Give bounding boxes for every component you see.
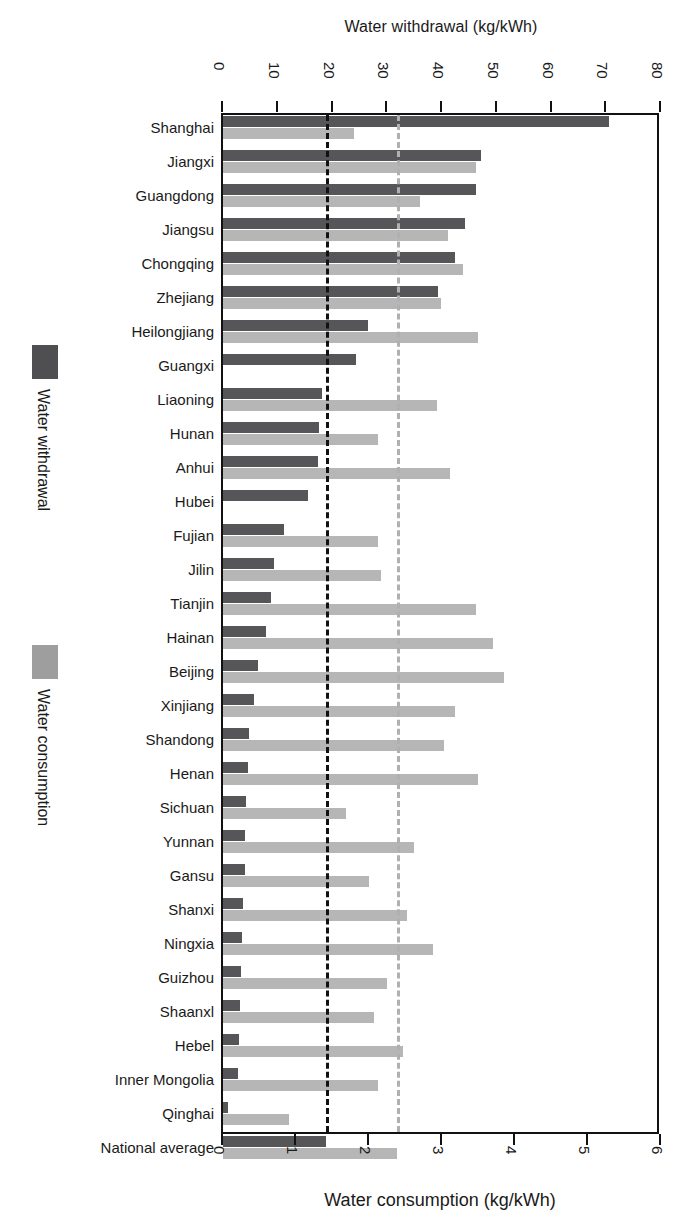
top-axis-tick-mark bbox=[659, 101, 661, 112]
bar-row bbox=[223, 217, 657, 251]
top-axis-tick-mark bbox=[440, 101, 442, 112]
bar-row bbox=[223, 931, 657, 965]
category-label: Inner Mongolia bbox=[34, 1071, 214, 1088]
top-axis-tick-label: 40 bbox=[430, 62, 447, 79]
category-label: Heilongjiang bbox=[34, 323, 214, 340]
bar-water-withdrawal bbox=[223, 116, 609, 127]
bar-water-consumption bbox=[223, 842, 414, 853]
category-label: Tianjin bbox=[34, 595, 214, 612]
category-label: Anhui bbox=[34, 459, 214, 476]
bar-water-withdrawal bbox=[223, 796, 246, 807]
category-label: Hebel bbox=[34, 1037, 214, 1054]
bar-water-consumption bbox=[223, 128, 354, 139]
bar-water-withdrawal bbox=[223, 762, 248, 773]
bar-water-withdrawal bbox=[223, 354, 356, 365]
bar-water-consumption bbox=[223, 604, 476, 615]
bar-row bbox=[223, 625, 657, 659]
bar-water-consumption bbox=[223, 672, 504, 683]
bar-row bbox=[223, 285, 657, 319]
reference-line-national-average-withdrawal bbox=[326, 115, 329, 1132]
category-label: Jiangxi bbox=[34, 153, 214, 170]
category-label: Qinghai bbox=[34, 1105, 214, 1122]
bottom-axis-tick-label: 5 bbox=[576, 1146, 593, 1154]
top-axis-tick-label: 60 bbox=[540, 62, 557, 79]
bar-row bbox=[223, 1033, 657, 1067]
top-axis-tick-mark bbox=[331, 101, 333, 112]
bar-water-consumption bbox=[223, 264, 463, 275]
bar-water-consumption bbox=[223, 468, 450, 479]
category-label: Sichuan bbox=[34, 799, 214, 816]
category-label: Xinjiang bbox=[34, 697, 214, 714]
category-label: Guangdong bbox=[34, 187, 214, 204]
bar-row bbox=[223, 965, 657, 999]
category-label: Jiangsu bbox=[34, 221, 214, 238]
top-axis-tick-label: 0 bbox=[211, 62, 228, 70]
bar-water-withdrawal bbox=[223, 1068, 238, 1079]
bottom-axis-tick-mark bbox=[586, 1134, 588, 1145]
bar-water-withdrawal bbox=[223, 694, 254, 705]
bottom-axis-tick-mark bbox=[513, 1134, 515, 1145]
bar-row bbox=[223, 421, 657, 455]
bar-water-consumption bbox=[223, 298, 441, 309]
bar-water-withdrawal bbox=[223, 422, 319, 433]
bottom-axis-tick-label: 3 bbox=[430, 1146, 447, 1154]
bottom-axis-tick-mark bbox=[367, 1134, 369, 1145]
top-axis-tick-mark bbox=[385, 101, 387, 112]
bar-row bbox=[223, 727, 657, 761]
bar-row bbox=[223, 523, 657, 557]
bottom-axis-tick-mark bbox=[221, 1134, 223, 1145]
top-axis-tick-mark bbox=[495, 101, 497, 112]
bar-water-withdrawal bbox=[223, 864, 245, 875]
bar-row bbox=[223, 897, 657, 931]
category-label: Henan bbox=[34, 765, 214, 782]
chart-plot-area bbox=[221, 113, 659, 1134]
bar-row bbox=[223, 761, 657, 795]
bar-water-withdrawal bbox=[223, 524, 284, 535]
bar-row bbox=[223, 149, 657, 183]
bar-water-withdrawal bbox=[223, 592, 271, 603]
top-axis-tick-mark bbox=[550, 101, 552, 112]
bar-water-consumption bbox=[223, 434, 378, 445]
bar-water-withdrawal bbox=[223, 660, 258, 671]
bar-water-consumption bbox=[223, 978, 387, 989]
bar-water-withdrawal bbox=[223, 626, 266, 637]
category-label: Zhejiang bbox=[34, 289, 214, 306]
bottom-axis-tick-label: 4 bbox=[503, 1146, 520, 1154]
bottom-axis-tick-label: 1 bbox=[284, 1146, 301, 1154]
category-label: Shandong bbox=[34, 731, 214, 748]
bar-water-consumption bbox=[223, 536, 378, 547]
bar-row bbox=[223, 455, 657, 489]
category-label: National average bbox=[34, 1139, 214, 1156]
top-axis-title: Water withdrawal (kg/kWh) bbox=[221, 18, 661, 36]
bar-water-withdrawal bbox=[223, 150, 481, 161]
bottom-axis-title: Water consumption (kg/kWh) bbox=[200, 1190, 680, 1211]
bottom-axis-tick-label: 0 bbox=[211, 1146, 228, 1154]
category-label: Chongqing bbox=[34, 255, 214, 272]
bottom-axis-tick-label: 2 bbox=[357, 1146, 374, 1154]
category-label: Guangxi bbox=[34, 357, 214, 374]
bar-row bbox=[223, 489, 657, 523]
bar-row bbox=[223, 183, 657, 217]
top-axis-tick-label: 80 bbox=[649, 62, 666, 79]
top-axis-tick-mark bbox=[276, 101, 278, 112]
category-label: Gansu bbox=[34, 867, 214, 884]
bar-water-withdrawal bbox=[223, 320, 368, 331]
reference-line-national-average-consumption bbox=[397, 115, 400, 1132]
bar-water-consumption bbox=[223, 706, 455, 717]
bar-water-withdrawal bbox=[223, 932, 242, 943]
category-label: Beijing bbox=[34, 663, 214, 680]
bar-water-withdrawal bbox=[223, 252, 455, 263]
bar-water-withdrawal bbox=[223, 388, 322, 399]
bar-water-withdrawal bbox=[223, 456, 318, 467]
category-label: Hubei bbox=[34, 493, 214, 510]
category-label: Shanghai bbox=[34, 119, 214, 136]
bar-water-consumption bbox=[223, 910, 407, 921]
bottom-axis-tick-mark bbox=[440, 1134, 442, 1145]
bar-water-consumption bbox=[223, 332, 478, 343]
bar-row bbox=[223, 115, 657, 149]
bar-water-withdrawal bbox=[223, 184, 476, 195]
bar-row bbox=[223, 557, 657, 591]
category-label: Fujian bbox=[34, 527, 214, 544]
top-axis-tick-mark bbox=[221, 101, 223, 112]
bar-water-withdrawal bbox=[223, 1102, 228, 1113]
